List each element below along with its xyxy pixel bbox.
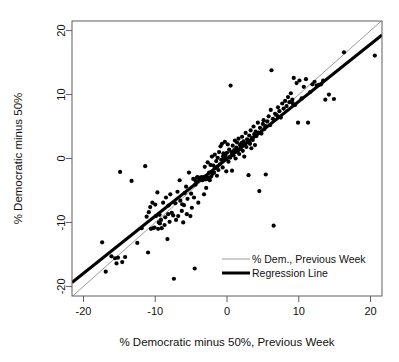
scatter-point — [302, 85, 306, 89]
scatter-point — [276, 105, 280, 109]
x-tick-label: 0 — [224, 305, 230, 317]
y-tick-label: 0 — [55, 155, 67, 161]
scatter-point — [263, 124, 267, 128]
scatter-point — [180, 202, 184, 206]
scatter-point — [181, 220, 185, 224]
scatter-point — [321, 78, 325, 82]
scatter-point — [261, 118, 265, 122]
scatter-point — [145, 215, 149, 219]
x-tick-label: -10 — [147, 305, 163, 317]
scatter-point — [203, 165, 207, 169]
scatter-point — [304, 77, 308, 81]
scatter-point — [207, 177, 211, 181]
scatter-point — [272, 224, 276, 228]
scatter-point — [241, 149, 245, 153]
scatter-point — [267, 114, 271, 118]
scatter-point — [152, 225, 156, 229]
scatter-point — [155, 190, 159, 194]
scatter-plot-figure: -20-1001020 -20-1001020 % Democratic min… — [0, 0, 399, 362]
scatter-point — [160, 226, 164, 230]
scatter-point — [256, 121, 260, 125]
scatter-point — [123, 255, 127, 259]
scatter-point — [242, 154, 246, 158]
y-tick-label: 10 — [55, 88, 67, 100]
scatter-point — [244, 145, 248, 149]
scatter-point — [165, 237, 169, 241]
scatter-point — [284, 104, 288, 108]
scatter-point — [228, 83, 232, 87]
scatter-point — [190, 206, 194, 210]
scatter-point — [373, 53, 377, 57]
scatter-point — [188, 214, 192, 218]
scatter-point — [289, 91, 293, 95]
scatter-point — [236, 137, 240, 141]
scatter-point — [217, 150, 221, 154]
legend-label-1: % Dem., Previous Week — [252, 253, 366, 265]
scatter-point — [153, 202, 157, 206]
scatter-point — [291, 101, 295, 105]
scatter-point — [213, 153, 217, 157]
x-tick-label: 20 — [364, 305, 376, 317]
scatter-point — [184, 185, 188, 189]
scatter-point — [171, 213, 175, 217]
scatter-point — [163, 215, 167, 219]
x-tick-label: 10 — [293, 305, 305, 317]
scatter-point — [207, 170, 211, 174]
scatter-point — [166, 212, 170, 216]
scatter-point — [172, 277, 176, 281]
scatter-point — [244, 131, 248, 135]
scatter-point — [332, 97, 336, 101]
scatter-point — [194, 179, 198, 183]
scatter-point — [306, 121, 310, 125]
scatter-point — [292, 76, 296, 80]
scatter-point — [234, 156, 238, 160]
scatter-point — [226, 160, 230, 164]
scatter-point — [249, 128, 253, 132]
scatter-point — [167, 220, 171, 224]
scatter-point — [189, 192, 193, 196]
scatter-point — [175, 190, 179, 194]
scatter-point — [221, 154, 225, 158]
scatter-point — [251, 124, 255, 128]
scatter-point — [234, 146, 238, 150]
scatter-point — [173, 201, 177, 205]
x-axis-title: % Democratic minus 50%, Previous Week — [119, 336, 334, 348]
scatter-point — [269, 68, 273, 72]
scatter-point — [196, 201, 200, 205]
scatter-point — [176, 214, 180, 218]
scatter-point — [187, 170, 191, 174]
scatter-point — [253, 143, 257, 147]
scatter-point — [178, 178, 182, 182]
scatter-point — [174, 218, 178, 222]
scatter-point — [249, 146, 253, 150]
scatter-point — [147, 210, 151, 214]
scatter-point — [259, 131, 263, 135]
scatter-point — [228, 155, 232, 159]
scatter-point — [327, 92, 331, 96]
scatter-point — [202, 192, 206, 196]
scatter-point — [162, 223, 166, 227]
plot-canvas: -20-1001020 -20-1001020 % Democratic min… — [0, 0, 399, 362]
scatter-point — [283, 99, 287, 103]
scatter-point — [286, 95, 290, 99]
scatter-point — [312, 80, 316, 84]
scatter-point — [246, 173, 250, 177]
scatter-point — [296, 121, 300, 125]
scatter-point — [248, 141, 252, 145]
scatter-point — [265, 119, 269, 123]
x-tick-label: -20 — [76, 305, 92, 317]
scatter-point — [202, 175, 206, 179]
scatter-point — [192, 195, 196, 199]
scatter-point — [221, 165, 225, 169]
scatter-point — [135, 241, 139, 245]
scatter-point — [120, 260, 124, 264]
scatter-point — [164, 195, 168, 199]
scatter-point — [240, 135, 244, 139]
scatter-point — [268, 123, 272, 127]
y-axis-title: % Democratic minus 50% — [12, 93, 24, 225]
scatter-point — [143, 164, 147, 168]
scatter-point — [216, 156, 220, 160]
scatter-point — [300, 96, 304, 100]
scatter-point — [116, 256, 120, 260]
scatter-point — [180, 209, 184, 213]
